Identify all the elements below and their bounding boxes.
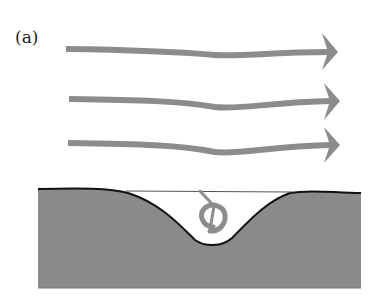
ground-profile xyxy=(38,188,361,288)
vortex-icon xyxy=(200,191,225,231)
flow-diagram xyxy=(0,0,377,298)
flow-arrow-middle xyxy=(69,99,332,108)
water-line xyxy=(125,191,292,192)
flow-arrow-bottom xyxy=(68,143,332,153)
flow-arrow-top xyxy=(66,49,330,55)
